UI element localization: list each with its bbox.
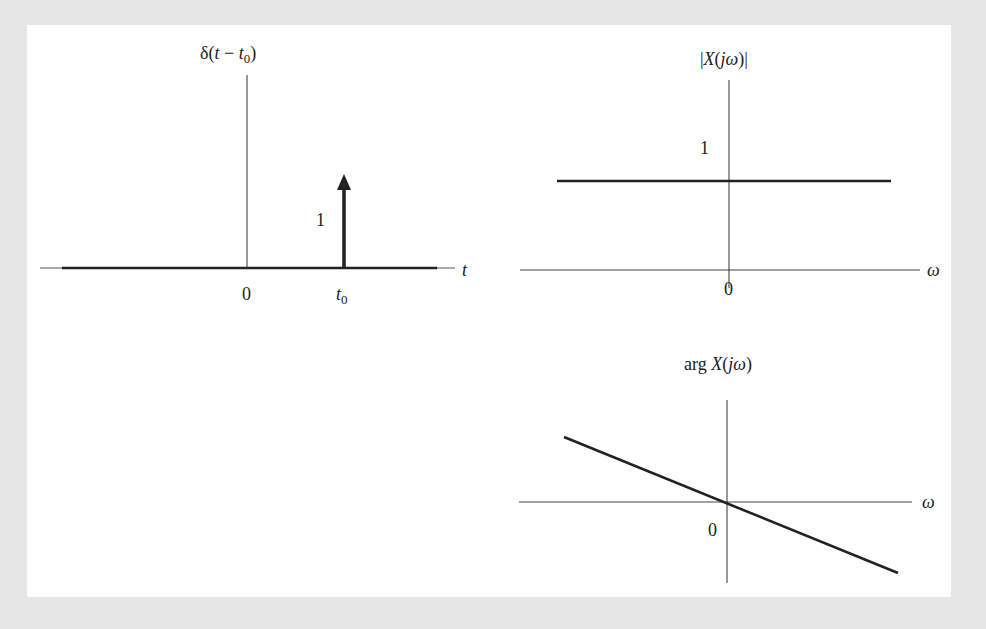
title-X: X — [711, 354, 722, 374]
t0-label-sub: 0 — [341, 292, 348, 307]
title-jw: jω — [728, 354, 746, 374]
figure-canvas — [0, 0, 986, 629]
phase-plot-title: arg X(jω) — [684, 355, 752, 373]
title-delta: δ( — [200, 43, 214, 63]
omega-axis-label: ω — [927, 261, 940, 279]
phase-plot — [519, 400, 912, 583]
magnitude-level-label: 1 — [700, 139, 709, 157]
title-minus: − — [220, 43, 239, 63]
title-bar-right: | — [744, 49, 748, 69]
title-arg: arg — [684, 354, 711, 374]
magnitude-plot — [520, 80, 920, 288]
magnitude-plot-title: |X(jω)| — [700, 50, 748, 68]
phase-line — [564, 437, 898, 573]
impulse-arrow-icon — [337, 174, 351, 190]
t0-tick-label: t0 — [336, 285, 348, 306]
omega-axis-label: ω — [922, 493, 935, 511]
amplitude-label: 1 — [316, 211, 325, 229]
title-paren-close: ) — [746, 354, 752, 374]
impulse-plot-title: δ(t − t0) — [200, 44, 256, 65]
impulse-plot — [40, 75, 455, 268]
title-close: ) — [250, 43, 256, 63]
t-axis-label: t — [462, 261, 467, 279]
title-X: X — [704, 49, 715, 69]
origin-label: 0 — [242, 285, 251, 303]
origin-label: 0 — [708, 521, 717, 539]
title-jw: jω — [721, 49, 739, 69]
origin-label: 0 — [724, 280, 733, 298]
